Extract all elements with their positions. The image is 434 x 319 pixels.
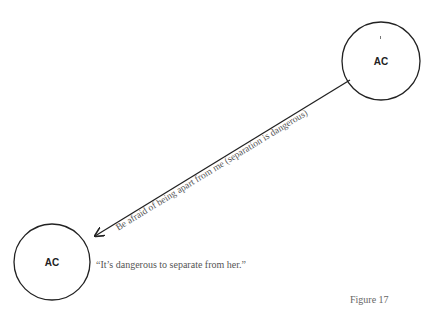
node-label-top-right: AC <box>374 56 388 67</box>
node-label-bottom-left: AC <box>45 257 59 268</box>
diagram-canvas: AC AC Be afraid of being apart from me (… <box>0 0 434 319</box>
figure-caption: Figure 17 <box>350 294 389 305</box>
tick-mark <box>380 36 381 39</box>
quote-text: “It’s dangerous to separate from her.” <box>96 259 246 270</box>
